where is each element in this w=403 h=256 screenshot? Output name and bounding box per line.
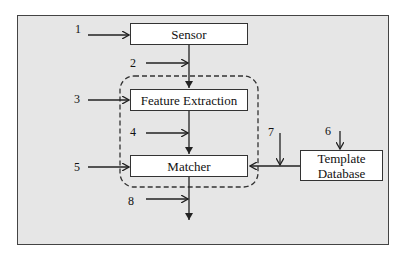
attack-point-3: 3 [74,92,80,107]
attack-point-6: 6 [325,124,331,139]
sensor-block: Sensor [130,23,248,45]
attack-point-7: 7 [268,125,274,140]
template-database-block: Template Database [300,150,383,181]
attack-point-5: 5 [74,160,80,175]
feature-extraction-label: Feature Extraction [141,93,237,108]
matcher-block: Matcher [130,155,248,177]
attack-point-8: 8 [128,194,134,209]
feature-extraction-block: Feature Extraction [130,89,248,111]
template-database-label-2: Database [318,166,366,181]
attack-point-2: 2 [130,56,136,71]
attack-point-4: 4 [130,125,136,140]
attack-point-1: 1 [75,22,81,37]
sensor-label: Sensor [171,27,206,42]
matcher-label: Matcher [167,159,210,174]
template-database-label-1: Template [317,151,365,166]
